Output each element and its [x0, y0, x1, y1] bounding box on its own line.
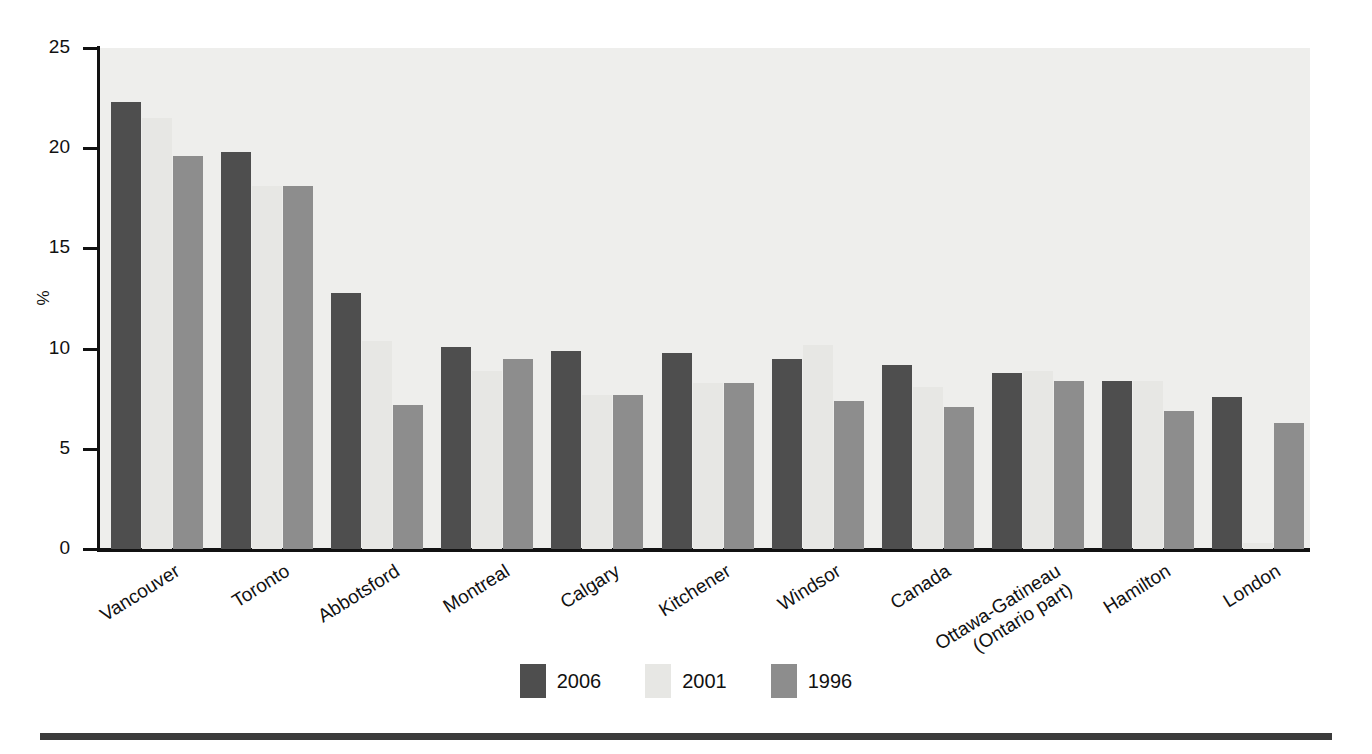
legend-label: 2001 — [682, 671, 727, 691]
legend-label: 2006 — [557, 671, 602, 691]
bar-2006 — [882, 365, 912, 549]
bar-group — [1212, 48, 1302, 549]
bar-1996 — [613, 395, 643, 549]
x-tick-label: London — [1219, 560, 1284, 612]
bar-group — [662, 48, 752, 549]
x-tick-label: Vancouver — [96, 560, 183, 626]
bar-2006 — [331, 293, 361, 550]
bar-2001 — [1243, 543, 1273, 549]
bar-2006 — [551, 351, 581, 549]
y-tick-label: 20 — [26, 137, 70, 156]
bar-group — [992, 48, 1082, 549]
x-tick-label-line: Toronto — [228, 560, 293, 611]
bar-1996 — [834, 401, 864, 549]
y-tick-mark — [83, 147, 97, 150]
bar-2001 — [1133, 381, 1163, 549]
bar-2006 — [221, 152, 251, 549]
bar-group — [1102, 48, 1192, 549]
bar-2001 — [252, 186, 282, 549]
bar-2006 — [772, 359, 802, 549]
x-tick-label-line: Montreal — [440, 560, 514, 617]
bar-1996 — [1164, 411, 1194, 549]
footer-divider — [40, 733, 1332, 740]
x-tick-label: Abbotsford — [314, 560, 404, 627]
x-tick-label: Windsor — [773, 560, 844, 615]
bar-group — [221, 48, 311, 549]
legend-item: 1996 — [771, 664, 853, 698]
bar-2001 — [693, 383, 723, 549]
bar-1996 — [173, 156, 203, 549]
bar-1996 — [283, 186, 313, 549]
y-tick-mark — [83, 247, 97, 250]
bar-2001 — [472, 371, 502, 549]
bar-2001 — [1023, 371, 1053, 549]
bar-group — [772, 48, 862, 549]
x-tick-label-line: Hamilton — [1099, 560, 1174, 618]
y-axis-label: % — [34, 290, 54, 305]
bar-1996 — [393, 405, 423, 549]
x-tick-label: Canada — [886, 560, 954, 614]
x-tick-label-line: Canada — [886, 560, 954, 613]
y-axis-line — [97, 46, 100, 551]
x-tick-label: Hamilton — [1099, 560, 1174, 618]
legend-swatch — [645, 664, 671, 698]
bar-1996 — [944, 407, 974, 549]
bar-2006 — [111, 102, 141, 549]
legend-label: 1996 — [808, 671, 853, 691]
y-tick-label: 25 — [26, 37, 70, 56]
bar-2006 — [1212, 397, 1242, 549]
bar-1996 — [724, 383, 754, 549]
y-tick-label: 0 — [26, 538, 70, 557]
x-tick-label: Calgary — [557, 560, 624, 613]
y-tick-mark — [83, 47, 97, 50]
x-tick-label-line: Abbotsford — [314, 560, 403, 627]
bar-2001 — [142, 118, 172, 549]
footer-note — [0, 746, 1372, 754]
bar-2001 — [582, 395, 612, 549]
bar-2006 — [662, 353, 692, 549]
bar-2006 — [992, 373, 1022, 549]
bar-2001 — [362, 341, 392, 549]
bar-2001 — [913, 387, 943, 549]
y-tick-label: 5 — [26, 438, 70, 457]
x-tick-label: Toronto — [228, 560, 293, 612]
y-tick-mark — [83, 548, 97, 551]
x-tick-label-line: Vancouver — [96, 560, 183, 625]
x-tick-label-line: London — [1219, 560, 1284, 611]
bar-1996 — [1054, 381, 1084, 549]
legend-item: 2006 — [520, 664, 602, 698]
chart-legend: 200620011996 — [0, 664, 1372, 698]
bar-group — [441, 48, 531, 549]
bar-group — [111, 48, 201, 549]
y-tick-label: 10 — [26, 338, 70, 357]
x-tick-label-line: Windsor — [773, 560, 843, 615]
bar-2006 — [1102, 381, 1132, 549]
legend-swatch — [520, 664, 546, 698]
x-tick-label: Montreal — [440, 560, 514, 618]
bar-group — [331, 48, 421, 549]
x-tick-label: Kitchener — [654, 560, 734, 621]
y-tick-mark — [83, 348, 97, 351]
y-tick-label: 15 — [26, 237, 70, 256]
y-tick-mark — [83, 448, 97, 451]
chart-figure: 0510152025 % VancouverTorontoAbbotsfordM… — [0, 0, 1372, 754]
legend-swatch — [771, 664, 797, 698]
bar-1996 — [1274, 423, 1304, 549]
x-tick-label-line: Calgary — [557, 560, 624, 613]
legend-item: 2001 — [645, 664, 727, 698]
bar-2006 — [441, 347, 471, 549]
bar-1996 — [503, 359, 533, 549]
bar-2001 — [803, 345, 833, 549]
x-tick-label-line: Kitchener — [654, 560, 733, 620]
bar-group — [882, 48, 972, 549]
bar-group — [551, 48, 641, 549]
